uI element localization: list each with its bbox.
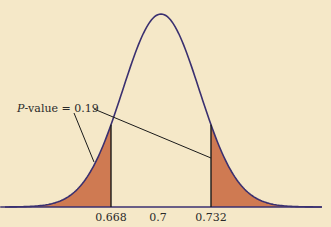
p-value-label: P-value = 0.19 [16, 102, 99, 115]
tick-label-2: 0.732 [195, 211, 227, 224]
tick-label-0: 0.668 [95, 211, 127, 224]
tick-label-1: 0.7 [149, 211, 167, 224]
p-value-chart: P-value = 0.19 0.668 0.7 0.732 [0, 0, 331, 227]
pointer-line-left [74, 113, 94, 162]
